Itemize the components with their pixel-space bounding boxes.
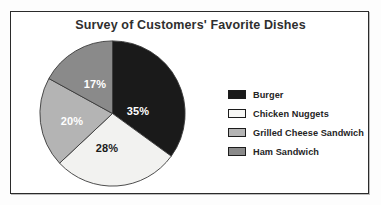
legend-swatch-icon [228,109,246,118]
legend-item-label: Burger [253,90,283,100]
pie-slice-value-label: 28% [96,142,119,154]
legend-item: Burger [228,88,364,101]
legend-item: Grilled Cheese Sandwich [228,126,364,139]
legend-item-label: Chicken Nuggets [253,109,329,119]
pie-slice-value-label: 20% [61,115,84,127]
legend-item-label: Ham Sandwich [253,147,319,157]
pie-chart-graphic: 35%28%20%17% [39,40,186,187]
chart-legend: BurgerChicken NuggetsGrilled Cheese Sand… [228,88,364,164]
pie-slice-group [40,41,185,186]
legend-item-label: Grilled Cheese Sandwich [253,128,364,138]
pie-slice-value-label: 17% [84,78,107,90]
legend-item: Ham Sandwich [228,145,364,158]
pie-svg: 35%28%20%17% [39,40,186,187]
legend-item: Chicken Nuggets [228,107,364,120]
legend-swatch-icon [228,128,246,137]
page-title: Survey of Customers' Favorite Dishes [0,18,381,32]
pie-chart-figure: Survey of Customers' Favorite Dishes 35%… [0,0,381,205]
legend-swatch-icon [228,90,246,99]
legend-swatch-icon [228,147,246,156]
pie-slice-value-label: 35% [127,105,150,117]
